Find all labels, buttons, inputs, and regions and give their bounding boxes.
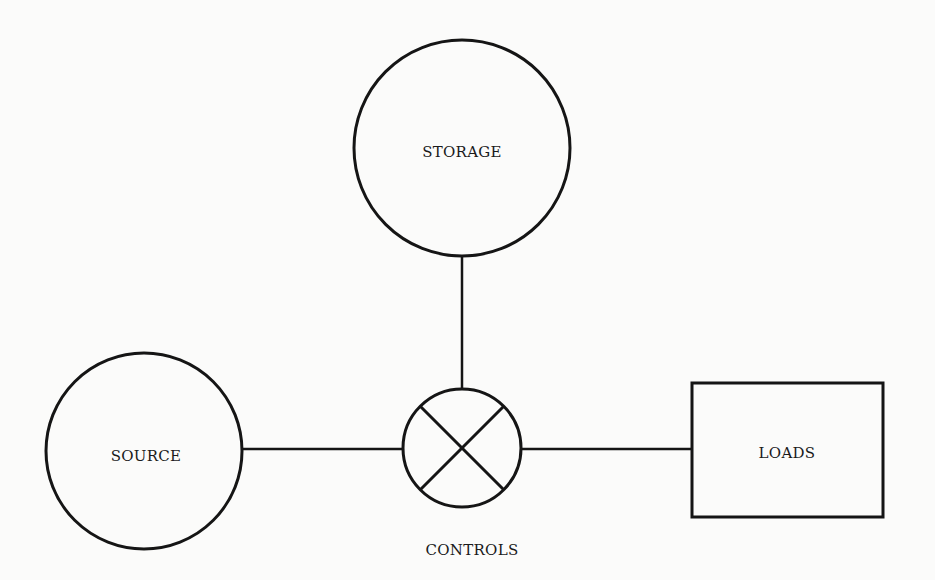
loads-node: LOADS xyxy=(692,383,883,517)
energy-system-diagram: STORAGE SOURCE CONTROLS LOADS xyxy=(0,0,935,580)
loads-label: LOADS xyxy=(759,444,816,462)
source-label: SOURCE xyxy=(111,447,182,465)
source-node: SOURCE xyxy=(46,353,242,549)
controls-node: CONTROLS xyxy=(403,389,521,559)
storage-label: STORAGE xyxy=(422,143,502,161)
controls-label: CONTROLS xyxy=(425,541,518,559)
storage-node: STORAGE xyxy=(354,40,570,256)
